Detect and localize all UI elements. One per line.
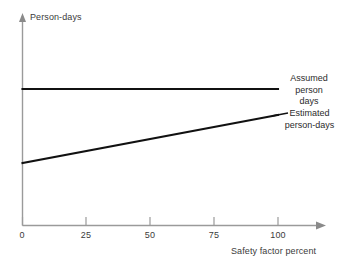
x-tick-label-25: 25: [72, 230, 100, 240]
annotation-assumed-line-3: days: [282, 96, 336, 108]
chart-plot-area: [0, 0, 338, 269]
annotation-estimated-person-days: Estimated person-days: [281, 108, 338, 131]
annotation-assumed-line-1: Assumed: [282, 73, 336, 85]
y-axis-arrow-icon: [19, 13, 26, 22]
x-axis-arrow-icon: [316, 222, 326, 230]
x-axis-title: Safety factor percent: [231, 246, 316, 256]
x-tick-label-50: 50: [136, 230, 164, 240]
chart-container: Person-days 0 25 50 75 100 Safety factor…: [0, 0, 338, 269]
x-tick-label-75: 75: [200, 230, 228, 240]
series-line-estimated-person-days: [23, 115, 279, 163]
annotation-assumed-person-days: Assumed person days: [282, 73, 336, 108]
y-axis-title: Person-days: [30, 12, 82, 22]
annotation-estimated-line-2: person-days: [281, 120, 338, 132]
x-tick-label-100: 100: [264, 230, 292, 240]
x-tick-label-0: 0: [8, 230, 36, 240]
annotation-estimated-line-1: Estimated: [281, 108, 338, 120]
annotation-assumed-line-2: person: [282, 85, 336, 97]
